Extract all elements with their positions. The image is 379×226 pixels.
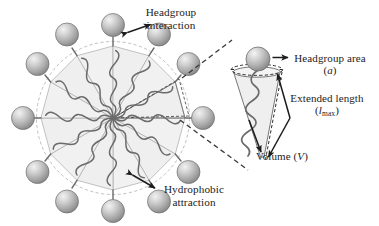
sphere-icon <box>177 161 200 184</box>
headgroup-interaction-line1: Headgroup <box>146 6 197 18</box>
hydrophobic-attraction-line1: Hydrophobic <box>164 183 224 195</box>
sphere-icon <box>192 107 215 130</box>
sphere-icon <box>102 200 125 223</box>
sphere-icon <box>26 161 49 184</box>
label-headgroup-area: Headgroup area (a) <box>283 52 377 77</box>
paren-close: ) <box>333 64 337 76</box>
sphere-icon <box>26 53 49 76</box>
label-extended-length: Extended length (lmax) <box>278 92 376 119</box>
sphere-icon <box>56 190 79 213</box>
headgroup-area-text: Headgroup area <box>294 52 365 64</box>
label-hydrophobic-attraction: Hydrophobic attraction <box>142 183 246 208</box>
sphere-icon <box>12 107 35 130</box>
hydrophobic-attraction-line2: attraction <box>142 196 246 209</box>
label-volume: Volume (V) <box>244 150 320 162</box>
micelle-packing-figure: Headgroup interaction Hydrophobic attrac… <box>0 0 379 226</box>
sphere-icon <box>56 23 79 46</box>
sphere-icon <box>177 53 200 76</box>
extended-length-text: Extended length <box>290 92 363 104</box>
headgroup-area-symbol: (a) <box>283 64 377 76</box>
volume-text-prefix: Volume ( <box>256 150 297 162</box>
volume-text-suffix: ) <box>304 150 308 162</box>
label-headgroup-interaction: Headgroup interaction <box>119 6 223 31</box>
paren-close: ) <box>335 104 339 116</box>
extended-length-symbol: (lmax) <box>278 104 376 118</box>
symbol-subscript-max: max <box>322 109 335 118</box>
sphere-icon-cone-headgroup <box>246 47 270 71</box>
cone-body <box>234 72 281 157</box>
headgroup-interaction-line2: interaction <box>119 19 223 32</box>
